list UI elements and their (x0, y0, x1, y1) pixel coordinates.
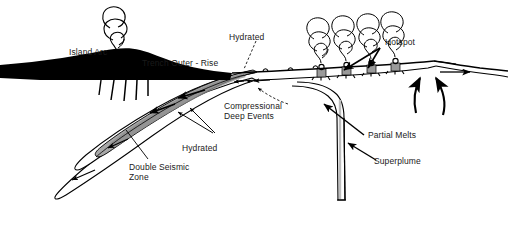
label-superplume: Superplume (374, 156, 421, 166)
ridge-upwelling-arrows (415, 78, 445, 115)
diagram-canvas: Island Arc Trench Outer - Rise Hydrated … (0, 0, 508, 243)
label-trench-outer-rise: Trench Outer - Rise (142, 58, 218, 68)
label-hydrated-upper: Hydrated (229, 32, 264, 42)
label-hotspot: Hotspot (385, 37, 415, 47)
label-island-arc: Island Arc (69, 47, 107, 57)
label-hydrated-lower: Hydrated (182, 143, 217, 153)
label-partial-melts: Partial Melts (368, 130, 416, 140)
label-compressional-deep-events: Compressional Deep Events (224, 101, 282, 121)
superplume-column (292, 82, 346, 200)
vent-1 (312, 64, 330, 80)
label-double-seismic-zone: Double Seismic Zone (129, 162, 189, 182)
